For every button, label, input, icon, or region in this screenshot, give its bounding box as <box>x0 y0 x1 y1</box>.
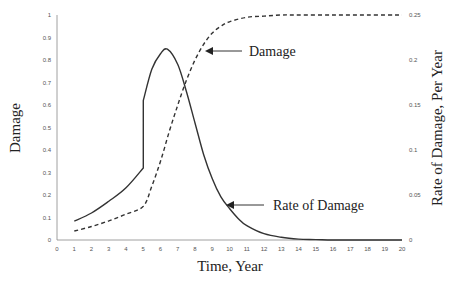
x-tick-label: 4 <box>124 246 128 252</box>
right-y-tick-label: 0.2 <box>409 57 418 63</box>
left-y-tick-label: 0.3 <box>43 170 52 176</box>
x-tick-labels: 01234567891011121314151617181920 <box>55 246 406 252</box>
x-tick-label: 18 <box>364 246 371 252</box>
damage-annotation: Damage <box>205 44 296 59</box>
x-tick-label: 17 <box>347 246 354 252</box>
x-axis-title: Time, Year <box>197 258 263 274</box>
left-y-tick-label: 0.7 <box>43 80 52 86</box>
x-tick-label: 11 <box>244 246 251 252</box>
left-y-tick-label: 0.9 <box>43 35 52 41</box>
damage-arrowhead-icon <box>205 47 213 55</box>
x-tick-label: 20 <box>399 246 406 252</box>
x-tick-label: 9 <box>211 246 215 252</box>
left-y-tick-labels: 00.10.20.30.40.50.60.70.80.91 <box>43 12 52 243</box>
x-tick-label: 13 <box>278 246 285 252</box>
x-tick-label: 3 <box>107 246 111 252</box>
x-tick-label: 19 <box>381 246 388 252</box>
x-tick-label: 8 <box>193 246 197 252</box>
x-tick-label: 2 <box>90 246 94 252</box>
damage-chart: 01234567891011121314151617181920 00.10.2… <box>0 0 461 288</box>
left-y-tick-label: 0 <box>48 237 52 243</box>
x-tick-label: 0 <box>55 246 59 252</box>
x-tick-label: 14 <box>295 246 302 252</box>
left-y-tick-label: 0.2 <box>43 192 52 198</box>
x-tick-label: 1 <box>73 246 77 252</box>
right-y-tick-labels: 00.050.10.150.20.25 <box>409 12 421 243</box>
x-tick-label: 5 <box>142 246 146 252</box>
right-y-tick-label: 0.15 <box>409 102 421 108</box>
rate-annotation-label: Rate of Damage <box>273 198 364 213</box>
x-tick-label: 6 <box>159 246 163 252</box>
x-tick-label: 16 <box>330 246 337 252</box>
right-y-axis-title: Rate of Damage, Per Year <box>429 50 445 206</box>
x-tick-label: 7 <box>176 246 180 252</box>
left-y-tick-label: 0.6 <box>43 102 52 108</box>
x-tick-label: 12 <box>261 246 268 252</box>
right-y-tick-label: 0.25 <box>409 12 421 18</box>
right-y-tick-label: 0.05 <box>409 192 421 198</box>
rate-annotation: Rate of Damage <box>226 198 364 213</box>
x-tick-label: 10 <box>226 246 233 252</box>
left-y-tick-label: 0.1 <box>43 215 52 221</box>
left-y-tick-label: 0.4 <box>43 147 52 153</box>
left-y-tick-label: 1 <box>48 12 52 18</box>
left-y-tick-label: 0.5 <box>43 125 52 131</box>
right-y-tick-label: 0 <box>409 237 413 243</box>
right-y-tick-label: 0.1 <box>409 147 418 153</box>
damage-annotation-label: Damage <box>249 44 296 59</box>
rate-arrowhead-icon <box>226 201 234 209</box>
x-tick-label: 15 <box>312 246 319 252</box>
left-y-axis-title: Damage <box>7 103 23 153</box>
left-y-tick-label: 0.8 <box>43 57 52 63</box>
